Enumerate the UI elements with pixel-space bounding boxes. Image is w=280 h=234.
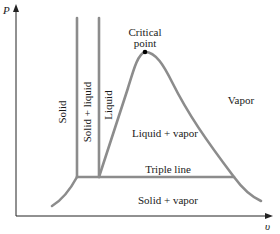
- phase-diagram: P υ Critical point Solid Solid + liquid …: [0, 0, 280, 234]
- region-solid-vapor-label: Solid + vapor: [138, 194, 198, 206]
- y-axis-label: P: [2, 4, 10, 16]
- x-axis-arrow-icon: [265, 213, 273, 219]
- y-axis-arrow-icon: [13, 4, 19, 12]
- triple-line-label: Triple line: [145, 163, 191, 175]
- critical-point-marker: [143, 50, 148, 55]
- sublimation-curve: [52, 177, 77, 206]
- region-liquid-vapor-label: Liquid + vapor: [132, 127, 198, 139]
- region-solid-label: Solid: [56, 100, 68, 124]
- region-vapor-label: Vapor: [228, 94, 255, 106]
- critical-point-label-line2: point: [134, 37, 157, 49]
- region-solid-liquid-label: Solid + liquid: [81, 81, 93, 142]
- x-axis-label: υ: [265, 220, 270, 232]
- region-liquid-label: Liquid: [102, 90, 114, 120]
